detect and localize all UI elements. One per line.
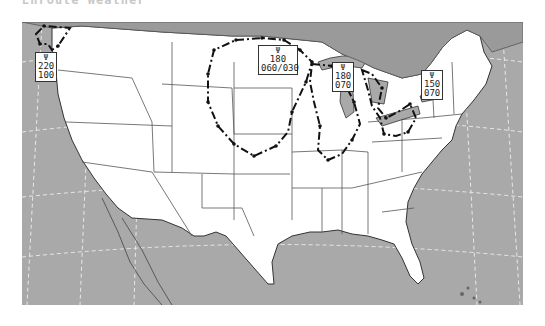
bottom-altitude: 060/030 (261, 64, 295, 73)
weather-map[interactable]: Ψ 220 100 Ψ 180 060/030 Ψ 180 070 Ψ 150 … (22, 22, 523, 305)
bottom-altitude: 070 (424, 89, 440, 98)
advisory-label-upper-midwest[interactable]: Ψ 180 060/030 (258, 45, 298, 75)
bahamas (460, 287, 482, 304)
advisory-label-pacific-northwest[interactable]: Ψ 220 100 (35, 52, 57, 82)
page-title: Enroute Weather (22, 0, 145, 7)
bottom-altitude: 070 (335, 81, 351, 90)
bottom-altitude: 100 (38, 71, 54, 80)
advisory-label-northeast[interactable]: Ψ 150 070 (421, 70, 443, 100)
advisory-label-michigan[interactable]: Ψ 180 070 (332, 62, 354, 92)
